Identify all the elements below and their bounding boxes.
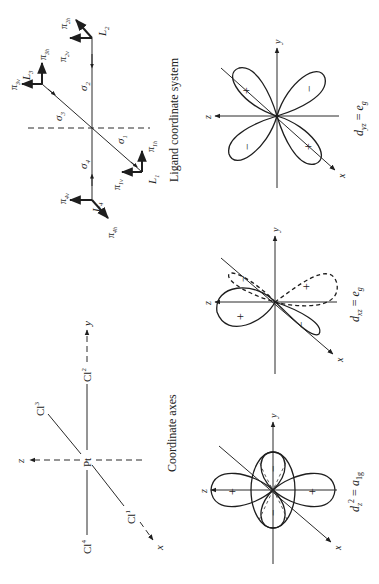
z-axis-label: z (202, 115, 213, 120)
l2-label: L2 (96, 26, 111, 37)
pi4h-label: π4h (105, 227, 118, 238)
x-axis (221, 258, 333, 354)
cl4-label: Cl4 (80, 540, 93, 554)
bond-cl1 (92, 465, 124, 506)
x-axis-label: x (336, 173, 347, 179)
sign-upper-right: + (240, 87, 254, 94)
pi1h-label: π1h (145, 141, 158, 152)
pi2v-label: π2v (57, 51, 70, 62)
pi2h-arrow (76, 20, 92, 38)
figure-rotated-page: z Pt Cl4 Cl2 y Cl3 Cl1 x Coordinate axes… (0, 0, 379, 584)
sign-upper-left: − (240, 143, 254, 150)
l1-label: L1 (146, 174, 161, 185)
dyz-label: dyz = eg (352, 101, 368, 136)
y-axis-label: y (81, 321, 93, 327)
ligand-coordinate-system-diagram: σ2 L2 π2v π2h σ4 L4 π4v π4h σ3 L3 π3v π3… (8, 18, 181, 238)
x-axis-label: x (332, 545, 343, 551)
l3-label: L3 (20, 70, 35, 81)
sigma1-label: σ1 (114, 135, 129, 144)
x-axis (140, 522, 153, 540)
z-axis-label: z (198, 489, 209, 494)
sign-lower-right: − (302, 85, 316, 92)
lobe-lower-right (277, 72, 325, 116)
coordinate-axes-caption: Coordinate axes (165, 394, 179, 472)
dz2-label: dz2 = a1g (347, 472, 364, 512)
sign-top: + (226, 488, 240, 495)
sigma2-label: σ2 (77, 82, 92, 91)
sigma3-label: σ3 (52, 112, 67, 121)
orbital-dyz: z y x − + + − dyz = eg (202, 39, 368, 188)
sign-2: − (294, 321, 308, 328)
coordinate-axes-diagram: z Pt Cl4 Cl2 y Cl3 Cl1 x Coordinate axes (14, 321, 179, 554)
sign-left: − (266, 509, 280, 516)
orbital-figure: z Pt Cl4 Cl2 y Cl3 Cl1 x Coordinate axes… (0, 0, 379, 584)
sign-bottom: + (306, 488, 320, 495)
lobe-minus-solid (275, 302, 320, 335)
cl1-label: Cl1 (124, 510, 137, 524)
dxz-label: dxz = eg (348, 287, 364, 322)
lobe-upper-left (229, 116, 277, 160)
y-axis-label: y (268, 413, 279, 419)
pi3v-label: π3v (8, 79, 21, 90)
sign-lower-left: + (302, 143, 316, 150)
bond-cl3 (48, 414, 81, 454)
sign-4: + (300, 283, 314, 290)
pi4v-label: π4v (57, 193, 70, 204)
pi1v-label: π1v (111, 179, 124, 190)
ligand-system-caption: Ligand coordinate system (167, 57, 181, 182)
cl3-label: Cl3 (33, 402, 46, 416)
x-axis-label: x (334, 357, 345, 363)
sign-right: − (266, 465, 280, 472)
y-axis-label: y (272, 39, 283, 45)
pi3h-label: π3h (37, 49, 50, 60)
lobe-lower-left (277, 116, 321, 164)
orbital-dxz: z y x + − − + dxz = eg (202, 227, 364, 374)
x-axis-label: x (153, 545, 165, 551)
z-axis-label: z (202, 301, 213, 306)
orbital-dz2: z y x + + − − dz2 = a1g (198, 413, 364, 564)
y-axis-label: y (270, 227, 281, 233)
pt-atom-label: Pt (81, 458, 93, 467)
z-axis-label: z (14, 458, 26, 464)
sigma4-label: σ4 (77, 160, 92, 169)
cl2-label: Cl2 (80, 368, 93, 382)
sign-3: − (236, 275, 250, 282)
pi2h-label: π2h (58, 18, 71, 29)
sign-1: + (234, 313, 248, 320)
